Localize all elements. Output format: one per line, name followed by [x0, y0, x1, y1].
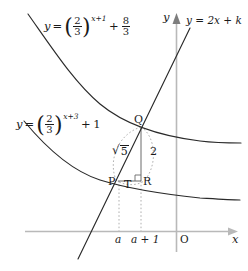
lower-eq-power-group: ( 2 3 ) x+3 [36, 114, 78, 136]
lower-eq-base-denominator: 3 [45, 124, 53, 135]
line-y-eq-2x-plus-k [78, 28, 190, 259]
upper-eq-addend-denominator: 3 [122, 26, 130, 37]
lower-eq-paren-open: ( [36, 115, 45, 135]
upper-eq-lhs: y [44, 21, 51, 33]
lower-eq-plus: + [81, 119, 91, 131]
point-label-q: Q [134, 114, 143, 125]
sqrt-radicand: 5 [120, 145, 129, 159]
upper-eq-base-denominator: 3 [73, 26, 81, 37]
math-figure: y = ( 2 3 ) x+1 + 8 3 y = ( 2 3 ) x+3 [0, 0, 248, 271]
upper-eq-base-numerator: 2 [73, 16, 81, 26]
upper-eq-addend-numerator: 8 [122, 16, 130, 26]
upper-eq-addend-fraction: 8 3 [122, 16, 130, 38]
x-tick-label-a-plus-1: a + 1 [131, 234, 159, 245]
y-axis-label: y [163, 12, 170, 24]
upper-eq-equals: = [53, 21, 63, 33]
lower-eq-base-numerator: 2 [45, 114, 53, 124]
hypotenuse-measure-label: √ 5 [112, 144, 129, 158]
x-axis-label: x [232, 234, 239, 246]
origin-label: O [180, 234, 189, 245]
x-tick-label-a: a [115, 234, 121, 245]
lower-curve-equation: y = ( 2 3 ) x+3 + 1 [16, 114, 100, 136]
lower-eq-exponent: x+3 [63, 113, 78, 121]
upper-eq-plus: + [109, 21, 119, 33]
point-label-t: T [124, 179, 131, 190]
line-equation-label: y = 2x + k [186, 15, 242, 26]
lower-eq-addend: 1 [93, 119, 100, 131]
upper-eq-paren-close: ) [82, 17, 91, 37]
lower-eq-equals: = [25, 119, 35, 131]
upper-curve-equation: y = ( 2 3 ) x+1 + 8 3 [44, 16, 131, 38]
sqrt-symbol: √ [112, 144, 120, 156]
lower-eq-paren-close: ) [54, 115, 63, 135]
point-label-r: R [143, 176, 151, 187]
upper-eq-exponent: x+1 [91, 15, 106, 23]
upper-eq-paren-open: ( [64, 17, 73, 37]
upper-eq-base-fraction: 2 3 [73, 16, 81, 38]
lower-eq-base-fraction: 2 3 [45, 114, 53, 136]
vertical-leg-measure-label: 2 [150, 146, 157, 157]
lower-eq-lhs: y [16, 119, 23, 131]
point-label-p: P [108, 176, 115, 187]
upper-eq-power-group: ( 2 3 ) x+1 [64, 16, 106, 38]
